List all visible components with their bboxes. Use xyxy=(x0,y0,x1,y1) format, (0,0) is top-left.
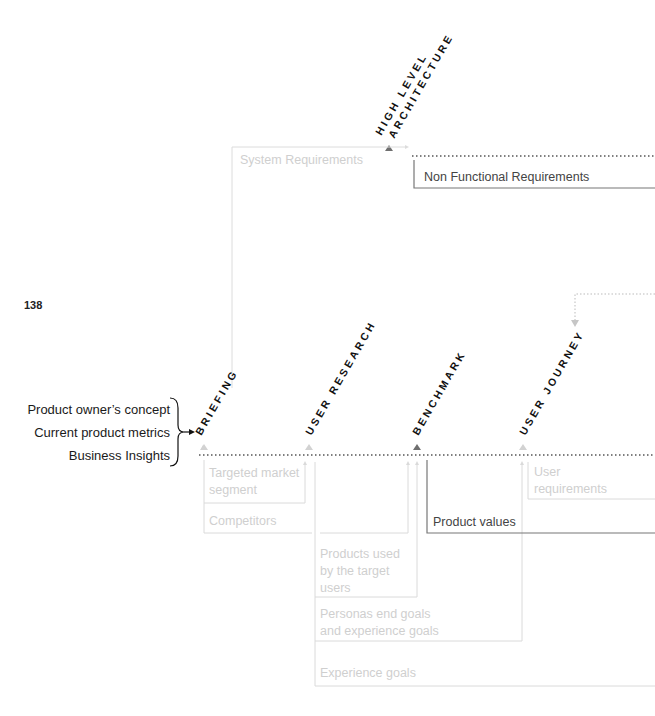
output-products-used: Products used by the target users xyxy=(320,546,400,597)
output-product-values: Product values xyxy=(433,514,516,531)
output-system-requirements: System Requirements xyxy=(240,152,363,169)
output-targeted-market-segment: Targeted market segment xyxy=(209,465,299,499)
output-non-functional-requirements: Non Functional Requirements xyxy=(424,169,589,186)
output-experience-goals: Experience goals xyxy=(320,665,416,682)
output-user-requirements: User requirements xyxy=(534,464,607,498)
output-competitors: Competitors xyxy=(209,513,276,530)
curly-brace-icon xyxy=(170,398,184,466)
output-personas: Personas end goals and experience goals xyxy=(320,606,439,640)
